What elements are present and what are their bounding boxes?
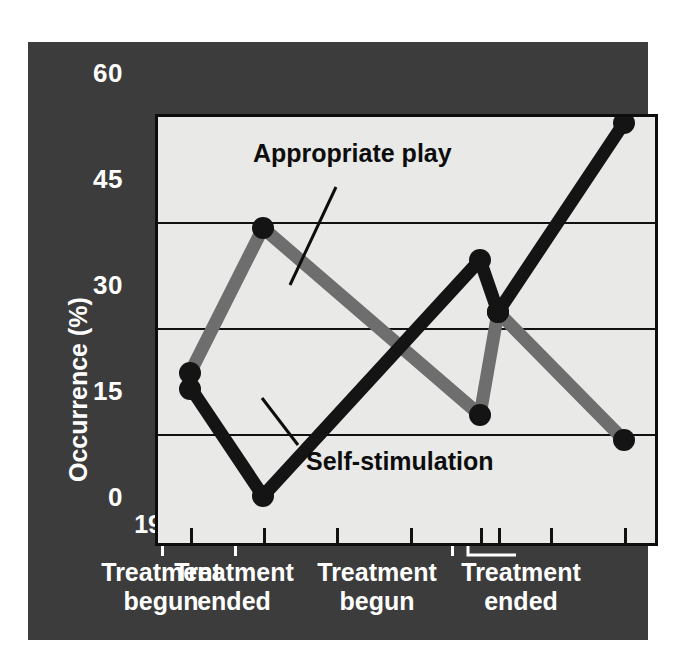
marker-self-stimulation-1968-25 <box>487 301 509 323</box>
y-tick-label-45: 45 <box>59 164 123 195</box>
y-tick-label-30: 30 <box>59 270 123 301</box>
y-tick-label-0: 0 <box>59 482 123 513</box>
y-tick-label-60: 60 <box>59 58 123 89</box>
marker-self-stimulation-1968 <box>469 249 491 271</box>
event-label-4-line2: ended <box>426 587 616 616</box>
plot-area: Appropriate play Self-stimulation <box>155 114 658 546</box>
chart-figure: Occurrence (%) 60 45 30 15 0 1964 1965 1… <box>0 0 676 664</box>
marker-self-stimulation-1964 <box>179 378 201 400</box>
marker-appropriate-play-1968 <box>469 404 491 426</box>
marker-appropriate-play-1965 <box>252 217 274 239</box>
annotation-self-stimulation: Self-stimulation <box>306 447 494 476</box>
event-label-4-line1: Treatment <box>426 558 616 587</box>
leader-line-self-stimulation <box>262 398 298 445</box>
line-self-stimulation <box>190 123 624 496</box>
annotation-appropriate-play: Appropriate play <box>253 139 452 168</box>
chart-panel: Occurrence (%) 60 45 30 15 0 1964 1965 1… <box>28 42 648 640</box>
marker-appropriate-play-1970 <box>613 429 635 451</box>
y-tick-label-15: 15 <box>59 376 123 407</box>
marker-self-stimulation-1965 <box>252 485 274 507</box>
series-lines <box>158 117 655 543</box>
event-label-4: Treatment ended <box>426 558 616 616</box>
